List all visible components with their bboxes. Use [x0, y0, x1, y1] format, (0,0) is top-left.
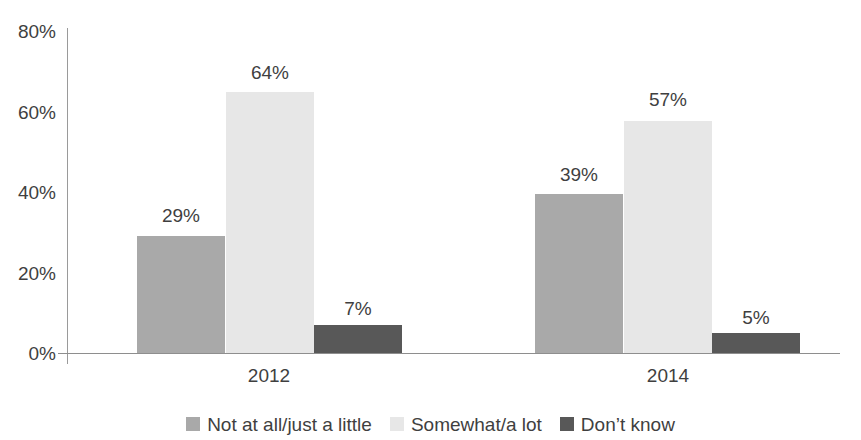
legend-swatch-icon-not-at-all-just-a-little: [186, 417, 200, 431]
bar-2014-not-at-all-just-a-little: [535, 194, 623, 353]
bar-2012-somewhat-a-lot: [226, 92, 314, 353]
bar-2012-not-at-all-just-a-little: [137, 236, 225, 353]
x-axis-category-label-2014: 2014: [580, 366, 756, 385]
bar-value-label-2012-dont-know: 7%: [314, 299, 402, 318]
x-axis-line: [58, 353, 840, 354]
bar-value-label-2014-somewhat-a-lot: 57%: [624, 90, 712, 109]
legend-swatch-icon-somewhat-a-lot: [390, 417, 404, 431]
legend-label-not-at-all-just-a-little: Not at all/just a little: [207, 415, 372, 434]
bar-chart: 80% 60% 40% 20% 0% 29% 64% 7% 39% 57% 5%…: [0, 0, 861, 440]
legend-item-dont-know[interactable]: Don’t know: [560, 415, 675, 434]
bar-value-label-2012-not-at-all-just-a-little: 29%: [137, 206, 225, 225]
legend-item-somewhat-a-lot[interactable]: Somewhat/a lot: [390, 415, 542, 434]
bar-value-label-2014-dont-know: 5%: [712, 308, 800, 327]
bar-value-label-2012-somewhat-a-lot: 64%: [226, 63, 314, 82]
bar-2012-dont-know: [314, 325, 402, 353]
legend-label-dont-know: Don’t know: [581, 415, 675, 434]
bar-value-label-2014-not-at-all-just-a-little: 39%: [535, 165, 623, 184]
chart-legend: Not at all/just a little Somewhat/a lot …: [0, 408, 861, 440]
x-axis-category-label-2012: 2012: [181, 366, 357, 385]
legend-swatch-icon-dont-know: [560, 417, 574, 431]
bar-2014-dont-know: [712, 333, 800, 353]
legend-item-not-at-all-just-a-little[interactable]: Not at all/just a little: [186, 415, 372, 434]
bar-2014-somewhat-a-lot: [624, 121, 712, 353]
plot-area: 80% 60% 40% 20% 0% 29% 64% 7% 39% 57% 5%…: [0, 0, 861, 400]
legend-label-somewhat-a-lot: Somewhat/a lot: [411, 415, 542, 434]
bars-layer: [0, 0, 861, 353]
